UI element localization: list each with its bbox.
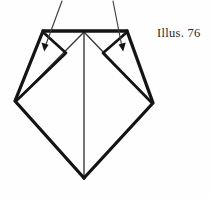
illustration-figure: Illus. 76 — [0, 0, 212, 198]
figure-caption: Illus. 76 — [157, 26, 212, 41]
